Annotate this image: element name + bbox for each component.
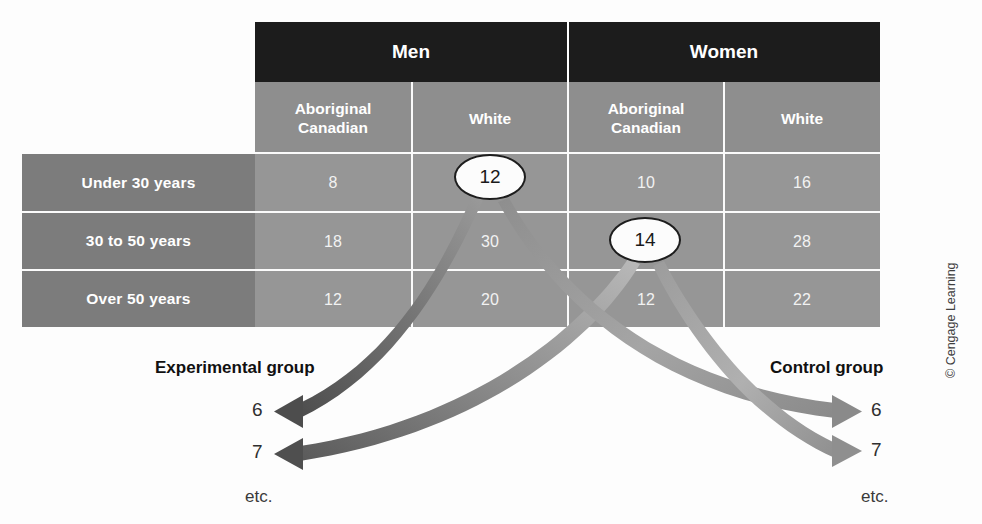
callout-14: 14: [609, 217, 681, 263]
experimental-etc: etc.: [245, 487, 272, 507]
experimental-item-6: 6: [252, 399, 263, 421]
experimental-group-title: Experimental group: [155, 358, 315, 378]
callout-12: 12: [454, 154, 526, 200]
figure-canvas: Under 30 years 30 to 50 years Over 50 ye…: [0, 0, 982, 524]
arrow-14-to-experimental-7: [274, 259, 640, 470]
control-etc: etc.: [861, 487, 888, 507]
control-group-title: Control group: [770, 358, 883, 378]
arrow-12-to-experimental-6: [274, 196, 483, 428]
control-item-7: 7: [871, 439, 882, 461]
assignment-arrows: [0, 0, 982, 524]
copyright-notice: © Cengage Learning: [944, 262, 958, 378]
control-item-6: 6: [871, 399, 882, 421]
experimental-item-7: 7: [252, 441, 263, 463]
